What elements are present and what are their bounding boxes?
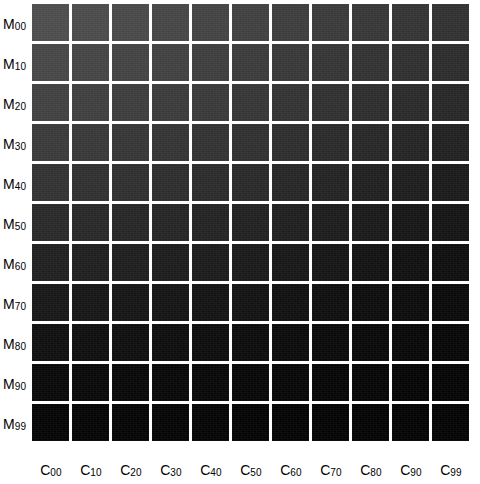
row-label-base: M (3, 97, 15, 111)
cell-texture (32, 404, 69, 441)
heatmap-cell (112, 364, 149, 401)
cell-texture (392, 164, 429, 201)
row-label-base: M (3, 257, 15, 271)
cell-texture (72, 404, 109, 441)
top-clip-band (0, 0, 480, 4)
cell-texture (392, 284, 429, 321)
row-label-base: M (3, 217, 15, 231)
row-label-m70: M70 (0, 284, 30, 324)
cell-texture (192, 204, 229, 241)
column-label-c40: C40 (191, 458, 231, 482)
heatmap-cell (352, 324, 389, 361)
column-label-subscript: 20 (130, 468, 142, 478)
cell-texture (32, 284, 69, 321)
heatmap-cell (432, 4, 469, 41)
cell-texture (232, 284, 269, 321)
cell-texture (32, 164, 69, 201)
heatmap-cell (192, 364, 229, 401)
heatmap-cell (192, 284, 229, 321)
heatmap-figure: M00M10M20M30M40M50M60M70M80M90M99 C00C10… (0, 0, 480, 484)
cell-texture (272, 404, 309, 441)
heatmap-cell (272, 164, 309, 201)
cell-texture (112, 204, 149, 241)
heatmap-cell (152, 324, 189, 361)
heatmap-cell (272, 204, 309, 241)
row-label-m40: M40 (0, 164, 30, 204)
heatmap-cell (432, 204, 469, 241)
cell-texture (352, 244, 389, 281)
heatmap-cell (352, 284, 389, 321)
column-label-c30: C30 (151, 458, 191, 482)
row-label-subscript: 00 (15, 22, 27, 32)
cell-texture (352, 124, 389, 161)
cell-texture (152, 124, 189, 161)
cell-texture (432, 4, 469, 41)
row-label-base: M (3, 137, 15, 151)
heatmap-cell (392, 324, 429, 361)
cell-texture (352, 404, 389, 441)
cell-texture (352, 324, 389, 361)
cell-texture (232, 404, 269, 441)
row-label-base: M (3, 297, 15, 311)
cell-texture (152, 364, 189, 401)
cell-texture (312, 244, 349, 281)
heatmap-cell (312, 204, 349, 241)
heatmap-cell (432, 164, 469, 201)
column-label-c00: C00 (31, 458, 71, 482)
cell-texture (432, 244, 469, 281)
cell-texture (392, 4, 429, 41)
cell-texture (392, 204, 429, 241)
heatmap-grid (32, 4, 472, 458)
heatmap-cell (192, 164, 229, 201)
row-label-base: M (3, 177, 15, 191)
row-label-subscript: 10 (15, 62, 27, 72)
cell-texture (352, 284, 389, 321)
heatmap-cell (312, 284, 349, 321)
heatmap-cell (272, 324, 309, 361)
heatmap-cell (72, 4, 109, 41)
heatmap-cell (112, 204, 149, 241)
cell-texture (112, 244, 149, 281)
cell-texture (152, 244, 189, 281)
heatmap-cell (232, 204, 269, 241)
heatmap-cell (312, 244, 349, 281)
cell-texture (152, 284, 189, 321)
cell-texture (272, 44, 309, 81)
heatmap-cell (232, 164, 269, 201)
heatmap-cell (312, 124, 349, 161)
heatmap-cell (312, 324, 349, 361)
heatmap-cell (112, 84, 149, 121)
cell-texture (192, 324, 229, 361)
heatmap-cell (312, 364, 349, 401)
heatmap-cell (352, 244, 389, 281)
heatmap-cell (112, 124, 149, 161)
cell-texture (192, 364, 229, 401)
cell-texture (152, 404, 189, 441)
column-label-base: C (120, 463, 130, 477)
row-label-base: M (3, 377, 15, 391)
cell-texture (432, 84, 469, 121)
cell-texture (432, 364, 469, 401)
cell-texture (352, 364, 389, 401)
row-label-m00: M00 (0, 4, 30, 44)
cell-texture (152, 324, 189, 361)
cell-texture (312, 164, 349, 201)
heatmap-cell (232, 324, 269, 361)
cell-texture (232, 124, 269, 161)
cell-texture (352, 164, 389, 201)
heatmap-cell (392, 164, 429, 201)
heatmap-cell (32, 124, 69, 161)
heatmap-cell (432, 124, 469, 161)
heatmap-cell (32, 364, 69, 401)
cell-texture (272, 284, 309, 321)
cell-texture (32, 84, 69, 121)
cell-texture (152, 4, 189, 41)
heatmap-cell (392, 204, 429, 241)
cell-texture (432, 404, 469, 441)
cell-texture (32, 44, 69, 81)
cell-texture (152, 44, 189, 81)
cell-texture (432, 324, 469, 361)
cell-texture (432, 204, 469, 241)
column-label-base: C (80, 463, 90, 477)
cell-texture (32, 364, 69, 401)
